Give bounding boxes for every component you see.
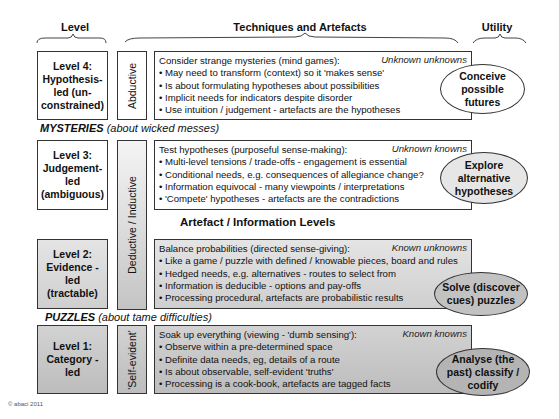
content-line: • Is about formulating hypotheses about … [159,80,467,92]
brace-utility [473,34,526,43]
utility-line: cues) puzzles [442,294,520,307]
section-puzzles-title: PUZZLES [45,311,95,323]
utility-line: codify [447,379,519,392]
level-2-box: Level 2: Evidence - led (tractable) [37,239,108,309]
content-line: • Observe within a pre-determined space [159,341,467,353]
brace-techniques [125,33,458,43]
content-line: • Use intuition / judgement - artefacts … [159,104,467,116]
level-3-content: Unknown knowns Test hypotheses (purposef… [154,140,472,210]
level-4-label-line: led (un- [41,86,104,99]
section-puzzles-subtitle: (about tame difficulties) [98,311,212,323]
content-line: • Definite data needs, eg, details of a … [159,354,467,366]
content-line: • Conditional needs, e.g. consequences o… [159,169,467,181]
reasoning-abductive-label: Abductive [126,62,138,108]
utility-line: Solve (discover [442,281,520,294]
utility-bubble-level-3: Explore alternative hypotheses [440,152,528,204]
knowledge-tag: Known unknowns [392,242,467,254]
level-4-label-line: Level 4: [41,60,104,73]
level-1-label-line: led [47,366,99,379]
content-line: • Hedged needs, e.g. alternatives - rout… [159,268,467,280]
level-1-box: Level 1: Category - led [37,325,108,394]
reasoning-self-evident: 'Self-evident' [117,325,147,394]
level-1-label-line: Category - [47,353,99,366]
utility-bubble-level-1: Analyse (the past) classify / codify [436,348,530,396]
reasoning-abductive: Abductive [117,51,147,120]
section-mysteries-title: MYSTERIES [40,122,104,134]
level-1-content: Known knowns Soak up everything (viewing… [154,325,472,394]
content-line: • Information is deducible - options and… [159,280,467,292]
content-line: • 'Compete' hypotheses - artefacts are t… [159,193,467,205]
copyright: © abaci 2011 [8,401,43,407]
content-line: • Processing procedural, artefacts are p… [159,292,467,304]
utility-line: past) classify / [447,366,519,379]
content-line: • Is about observable, self-evident 'tru… [159,366,467,378]
content-line: • Information equivocal - many viewpoint… [159,181,467,193]
reasoning-deductive-inductive-label: Deductive / Inductive [126,176,138,273]
level-2-label-line: Evidence - [46,261,99,274]
utility-line: Analyse (the [447,353,519,366]
level-1-label-line: Level 1: [47,340,99,353]
content-line: • May need to transform (context) so it … [159,67,467,79]
utility-line: alternative [455,172,513,185]
brace-level [37,34,106,43]
knowledge-tag: Unknown knowns [392,143,467,155]
reasoning-deductive-inductive: Deductive / Inductive [117,140,147,310]
level-2-content: Known unknowns Balance probabilities (di… [154,239,472,309]
utility-line: Explore [455,159,513,172]
level-4-box: Level 4: Hypothesis- led (un- constraine… [37,51,108,120]
level-4-label-line: Hypothesis- [41,73,104,86]
knowledge-tag: Unknown unknowns [381,54,467,66]
content-line: • Multi-level tensions / trade-offs - en… [159,156,467,168]
level-3-label-line: (ambiguous) [41,188,104,201]
section-mysteries: MYSTERIES (about wicked messes) [40,122,219,134]
content-line: • Like a game / puzzle with defined / kn… [159,255,467,267]
reasoning-self-evident-label: 'Self-evident' [126,330,138,389]
level-3-label-line: led [41,175,104,188]
section-mysteries-subtitle: (about wicked messes) [107,122,220,134]
knowledge-tag: Known knowns [402,328,467,340]
content-line: • Processing is a cook-book, artefacts a… [159,378,467,390]
utility-line: Conceive [459,70,506,83]
content-line: • Implicit needs for indicators despite … [159,92,467,104]
utility-bubble-level-4: Conceive possible futures [440,64,525,114]
level-2-label-line: Level 2: [46,248,99,261]
artefact-information-levels-title: Artefact / Information Levels [180,216,335,228]
utility-line: possible [459,83,506,96]
section-puzzles: PUZZLES (about tame difficulties) [45,311,212,323]
level-2-label-line: (tractable) [46,287,99,300]
utility-line: hypotheses [455,185,513,198]
utility-bubble-level-2: Solve (discover cues) puzzles [434,272,528,316]
level-4-content: Unknown unknowns Consider strange myster… [154,51,472,120]
level-3-label-line: Judgement- [41,162,104,175]
level-3-label-line: Level 3: [41,149,104,162]
level-4-label-line: constrained) [41,99,104,112]
utility-line: futures [459,96,506,109]
level-2-label-line: led [46,274,99,287]
level-3-box: Level 3: Judgement- led (ambiguous) [37,140,108,210]
